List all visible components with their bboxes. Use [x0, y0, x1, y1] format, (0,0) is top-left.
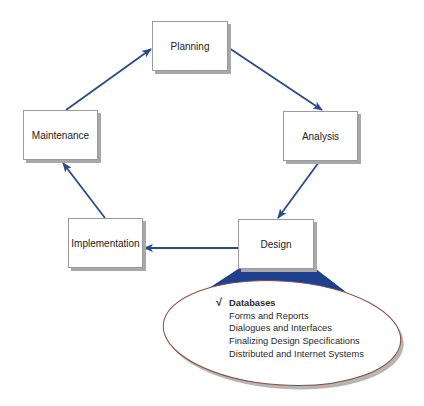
arrow-analysis-to-design	[278, 162, 319, 218]
list-item-databases: √Databases	[216, 296, 364, 310]
arrow-maintenance-to-planning	[66, 49, 151, 110]
node-implementation: Implementation	[68, 218, 143, 268]
node-maintenance: Maintenance	[23, 110, 98, 160]
list-item: Forms and Reports	[216, 310, 364, 323]
node-design: Design	[238, 219, 314, 269]
node-label: Design	[260, 239, 291, 250]
node-planning: Planning	[152, 21, 228, 71]
design-activities-list: √Databases Forms and Reports Dialogues a…	[216, 296, 364, 361]
list-item: Finalizing Design Specifications	[216, 335, 364, 348]
list-item: Dialogues and Interfaces	[216, 322, 364, 335]
checkmark-icon: √	[216, 296, 229, 309]
node-label: Analysis	[302, 131, 339, 142]
node-label: Planning	[171, 41, 210, 52]
node-label: Maintenance	[32, 130, 89, 141]
arrow-planning-to-analysis	[229, 48, 322, 110]
sdlc-cycle-diagram: Planning Analysis Design Implementation …	[0, 0, 424, 406]
node-analysis: Analysis	[283, 111, 358, 161]
node-label: Implementation	[71, 238, 139, 249]
list-item: Distributed and Internet Systems	[216, 348, 364, 361]
arrow-implementation-to-maintenance	[63, 163, 105, 218]
